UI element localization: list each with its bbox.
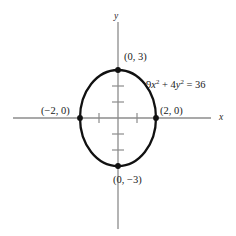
vertex-dot-bottom bbox=[115, 163, 121, 169]
ellipse-figure: x y (0, 3) (2, 0) (−2, 0) (0, −3) 9x2 + … bbox=[0, 0, 236, 236]
y-axis-label: y bbox=[114, 12, 118, 22]
vertex-label-right: (2, 0) bbox=[160, 106, 183, 117]
plot-canvas bbox=[0, 0, 236, 236]
vertex-label-top: (0, 3) bbox=[124, 52, 147, 63]
equation-equals: = bbox=[184, 79, 195, 90]
vertex-dot-left bbox=[77, 115, 83, 121]
vertex-label-bottom: (0, −3) bbox=[113, 175, 142, 186]
equation-plus: + bbox=[159, 79, 170, 90]
vertex-dot-top bbox=[115, 67, 121, 73]
vertex-dot-right bbox=[153, 115, 159, 121]
x-axis-label: x bbox=[219, 113, 223, 123]
equation-annotation: 9x2 + 4y2 = 36 bbox=[146, 80, 206, 91]
vertex-label-left: (−2, 0) bbox=[41, 106, 70, 117]
equation-rhs: 36 bbox=[195, 79, 206, 90]
